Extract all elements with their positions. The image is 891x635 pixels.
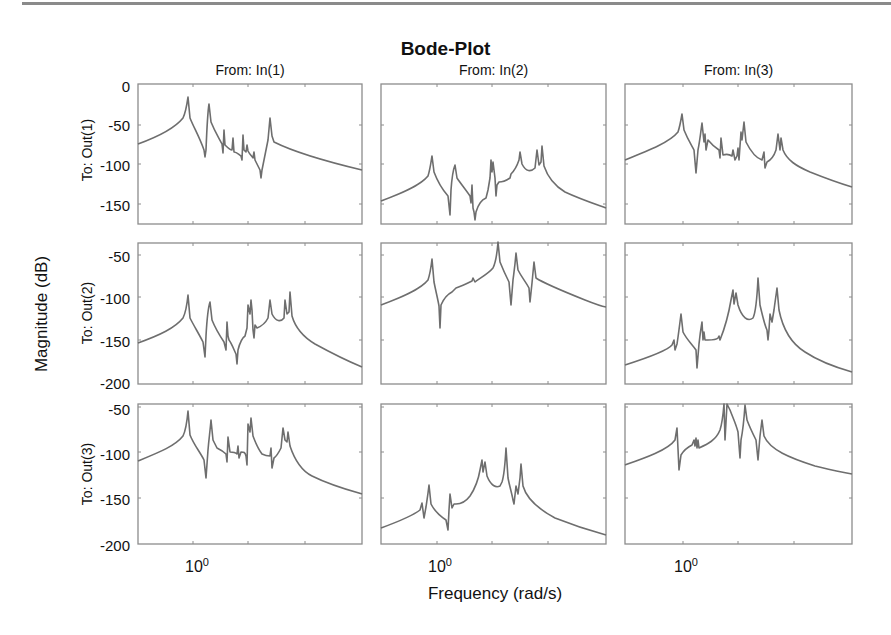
- tick-marks: [138, 84, 852, 544]
- panel-r3c2: [381, 404, 606, 544]
- panel-r3c3: [625, 404, 852, 544]
- curve-r2c3: [625, 278, 852, 372]
- curve-r1c3: [625, 114, 852, 187]
- panel-r1c2: [381, 84, 606, 224]
- plot-grid: [0, 0, 891, 635]
- curve-r2c1: [138, 292, 362, 367]
- curve-r1c1: [138, 97, 362, 178]
- curve-r3c1: [138, 411, 362, 494]
- panel-frames: [138, 84, 852, 544]
- curve-r1c2: [381, 146, 606, 220]
- panel-r2c2: [381, 243, 606, 384]
- curve-r3c3: [625, 404, 852, 474]
- curve-r3c2: [381, 448, 606, 535]
- panel-r2c3: [625, 243, 852, 384]
- magnitude-curves: [138, 97, 852, 535]
- curve-r2c2: [381, 242, 606, 328]
